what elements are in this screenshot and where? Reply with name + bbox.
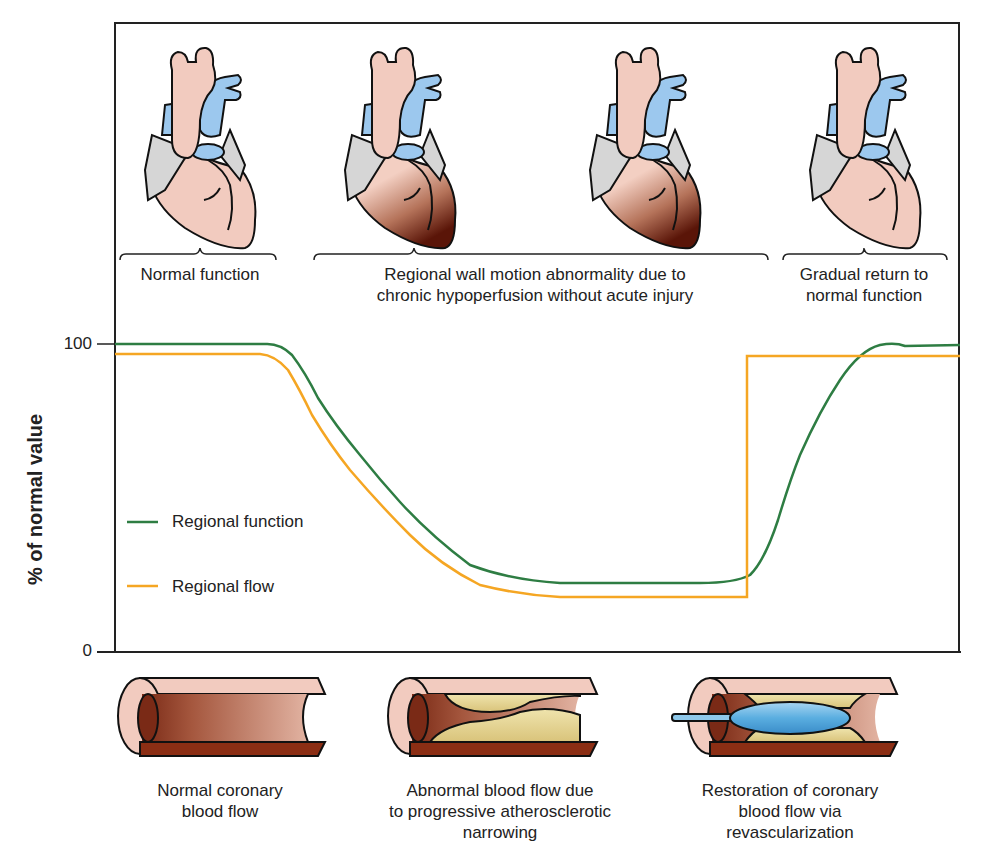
figure-graphics xyxy=(0,0,983,866)
label-line: Regional wall motion abnormality due to xyxy=(330,264,740,285)
heart-normal xyxy=(145,48,255,248)
label-line: Restoration of coronary xyxy=(675,780,905,801)
label-line: chronic hypoperfusion without acute inju… xyxy=(330,285,740,306)
vessel-narrowed xyxy=(388,678,597,756)
label-line: normal function xyxy=(778,285,950,306)
label-abnormal-blood-flow: Abnormal blood flow due to progressive a… xyxy=(355,780,645,843)
heart-ischemic-1 xyxy=(345,48,455,248)
label-line: Normal coronary xyxy=(120,780,320,801)
label-line: Gradual return to xyxy=(778,264,950,285)
label-line: blood flow xyxy=(120,801,320,822)
vessel-angioplasty xyxy=(672,678,897,756)
legend-item-regional-function: Regional function xyxy=(172,511,303,533)
heart-ischemic-2 xyxy=(590,48,700,248)
label-normal-coronary-flow: Normal coronary blood flow xyxy=(120,780,320,822)
label-line: revascularization xyxy=(675,822,905,843)
label-line: to progressive atherosclerotic xyxy=(355,801,645,822)
label-wall-motion-abnormality: Regional wall motion abnormality due to … xyxy=(330,264,740,306)
label-gradual-return: Gradual return to normal function xyxy=(778,264,950,306)
line-regional-function xyxy=(115,344,960,583)
heart-recovered xyxy=(810,48,920,248)
label-line: narrowing xyxy=(355,822,645,843)
vessel-normal xyxy=(118,678,325,756)
top-braces xyxy=(120,248,947,260)
label-normal-function: Normal function xyxy=(115,264,285,285)
label-line: blood flow via xyxy=(675,801,905,822)
label-line: Abnormal blood flow due xyxy=(355,780,645,801)
label-restoration-flow: Restoration of coronary blood flow via r… xyxy=(675,780,905,843)
legend-item-regional-flow: Regional flow xyxy=(172,576,274,598)
